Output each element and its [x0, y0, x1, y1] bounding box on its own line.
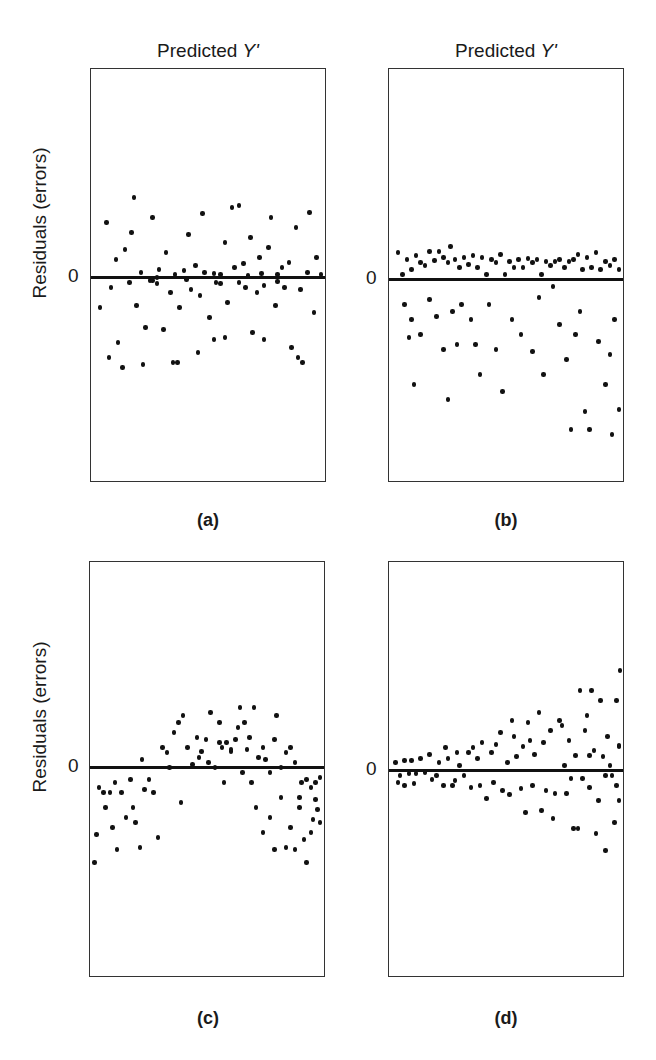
data-point [157, 267, 162, 272]
data-point [160, 745, 165, 750]
data-point [610, 432, 615, 437]
data-point [432, 258, 437, 263]
data-point [241, 261, 246, 266]
zero-tick-b: 0 [366, 267, 377, 289]
data-point [427, 297, 432, 302]
x-axis-label-text: Predicted [455, 40, 541, 61]
data-point [535, 257, 540, 262]
data-point [562, 763, 567, 768]
data-point [478, 783, 483, 788]
data-point [207, 315, 212, 320]
data-point [282, 285, 287, 290]
data-point [448, 244, 453, 249]
data-point [284, 845, 289, 850]
data-point [412, 781, 417, 786]
data-point [127, 280, 132, 285]
data-point [587, 427, 592, 432]
data-point [594, 250, 599, 255]
data-point [307, 210, 312, 215]
data-point [418, 756, 423, 761]
data-point [583, 409, 588, 414]
data-point [293, 760, 298, 765]
data-point [409, 267, 414, 272]
data-point [459, 302, 464, 307]
data-point [168, 290, 173, 295]
data-point [198, 293, 203, 298]
data-point [430, 777, 435, 782]
data-point [589, 688, 594, 693]
data-point [197, 755, 202, 760]
data-point [313, 780, 318, 785]
data-point [612, 820, 617, 825]
data-point [256, 755, 261, 760]
scatter-panel-d [388, 561, 624, 977]
data-point [116, 340, 121, 345]
data-point [441, 783, 446, 788]
data-point [263, 757, 268, 762]
data-point [562, 265, 567, 270]
data-point [576, 252, 581, 257]
data-point [296, 355, 301, 360]
data-point [510, 317, 515, 322]
data-point [230, 205, 235, 210]
data-point [407, 771, 412, 776]
data-point [455, 342, 460, 347]
data-point [185, 745, 190, 750]
data-point [289, 345, 294, 350]
data-point [225, 300, 230, 305]
data-point [530, 349, 535, 354]
data-point [238, 705, 243, 710]
data-point [288, 825, 293, 830]
data-point [450, 309, 455, 314]
data-point [603, 382, 608, 387]
data-point [208, 710, 213, 715]
data-point [530, 260, 535, 265]
data-point [608, 263, 613, 268]
data-point [564, 791, 569, 796]
data-point [140, 757, 145, 762]
data-point [608, 352, 613, 357]
data-point [113, 780, 118, 785]
data-point [612, 317, 617, 322]
data-point [441, 255, 446, 260]
data-point [142, 787, 147, 792]
zero-tick-a: 0 [68, 265, 79, 287]
data-point [423, 263, 428, 268]
data-point [471, 745, 476, 750]
data-point [293, 847, 298, 852]
data-point [557, 257, 562, 262]
data-point [414, 771, 419, 776]
data-point [548, 728, 553, 733]
data-point [583, 728, 588, 733]
data-point [521, 744, 526, 749]
data-point [537, 295, 542, 300]
data-point [297, 805, 302, 810]
data-point [218, 281, 223, 286]
data-point [500, 788, 505, 793]
data-point [489, 750, 494, 755]
data-point [250, 330, 255, 335]
panel-label-a: (a) [178, 510, 238, 531]
data-point [109, 285, 114, 290]
data-point [514, 754, 519, 759]
data-point [605, 734, 610, 739]
data-point [612, 257, 617, 262]
data-point [92, 860, 97, 865]
data-point [427, 752, 432, 757]
data-point [177, 305, 182, 310]
data-point [222, 780, 227, 785]
data-point [507, 259, 512, 264]
data-point [200, 211, 205, 216]
data-point [617, 267, 622, 272]
data-point [272, 847, 277, 852]
data-point [279, 765, 284, 770]
data-point [589, 265, 594, 270]
data-point [279, 795, 284, 800]
zero-reference-line [91, 276, 325, 279]
data-point [573, 753, 578, 758]
data-point [212, 337, 217, 342]
data-point [434, 773, 439, 778]
data-point [500, 389, 505, 394]
data-point [224, 740, 229, 745]
x-axis-label-var: Y' [541, 40, 557, 61]
